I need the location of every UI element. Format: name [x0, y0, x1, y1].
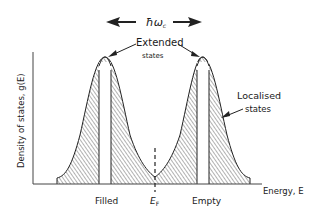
- x-axis-label: Energy, E: [263, 186, 304, 196]
- arrow-icon: [191, 51, 200, 57]
- arrow-icon: [108, 50, 117, 57]
- arrow-left-icon: [106, 17, 136, 27]
- empty-label: Empty: [192, 196, 222, 206]
- spacing-label: ħωc: [146, 16, 167, 29]
- localised-label-2: states: [245, 104, 272, 114]
- y-axis-label: Density of states, g(E): [16, 73, 26, 168]
- filled-label: Filled: [95, 196, 118, 206]
- landau-band-left: [57, 57, 155, 184]
- localised-arrow: [221, 109, 243, 118]
- arrow-right-icon: [173, 17, 202, 27]
- extended-strip-left: [99, 62, 111, 184]
- dos-diagram: ħωc Extended states Localised states Den…: [0, 0, 318, 217]
- localised-label: Localised: [237, 90, 281, 101]
- fermi-label: EF: [150, 196, 160, 207]
- extended-label-2: states: [142, 52, 164, 60]
- extended-label: Extended: [136, 37, 184, 48]
- landau-band-right: [155, 57, 250, 184]
- extended-strip-right: [197, 62, 209, 184]
